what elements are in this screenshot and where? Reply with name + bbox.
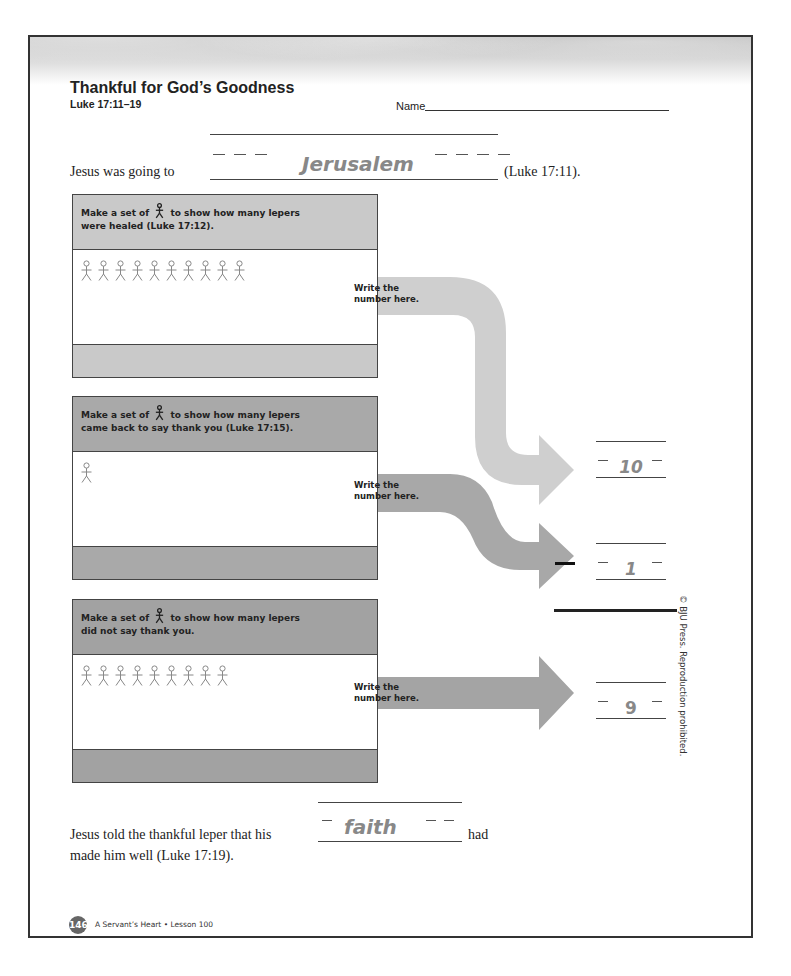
answer-2-field[interactable]: 1 bbox=[596, 559, 666, 580]
set-box-header: Make a set of to show how many lepers di… bbox=[73, 600, 377, 655]
figure-set bbox=[79, 462, 94, 484]
leper-figure-icon bbox=[164, 260, 179, 282]
subtraction-bar bbox=[554, 609, 677, 612]
drawing-area[interactable] bbox=[73, 250, 377, 344]
faith-answer: faith bbox=[344, 814, 397, 841]
arrow-3-label: Write thenumber here. bbox=[354, 682, 419, 704]
answer-3-field[interactable]: 9 bbox=[596, 698, 666, 719]
answer-3-top-line bbox=[596, 682, 666, 683]
leper-figure-icon bbox=[147, 260, 162, 282]
leper-figure-icon bbox=[198, 260, 213, 282]
stick-figure-icon bbox=[154, 405, 165, 421]
set-box-footer bbox=[73, 344, 377, 377]
leper-figure-icon bbox=[198, 665, 213, 687]
question2-line2: made him well (Luke 17:19). bbox=[70, 848, 234, 864]
leper-figure-icon bbox=[130, 260, 145, 282]
footer-text: A Servant’s Heart • Lesson 100 bbox=[95, 920, 213, 929]
stick-figure-icon bbox=[154, 608, 165, 624]
instruction-text: to show how many lepers bbox=[171, 410, 300, 420]
worksheet-page: Thankful for God’s Goodness Luke 17:11–1… bbox=[28, 35, 753, 938]
minus-sign-icon bbox=[555, 562, 575, 565]
answer-2-top-line bbox=[596, 543, 666, 544]
leper-figure-icon bbox=[79, 260, 94, 282]
instruction-text: came back to say thank you (Luke 17:15). bbox=[81, 423, 293, 433]
answer-1-field[interactable]: 10 bbox=[596, 457, 666, 478]
page-number-badge: 146 bbox=[69, 916, 87, 934]
instruction-text: to show how many lepers bbox=[171, 208, 300, 218]
instruction-text: to show how many lepers bbox=[171, 613, 300, 623]
leper-figure-icon bbox=[215, 665, 230, 687]
set-box-not-thankful: Make a set of to show how many lepers di… bbox=[72, 599, 378, 783]
set-box-healed: Make a set of to show how many lepers we… bbox=[72, 194, 378, 378]
drawing-area[interactable] bbox=[73, 655, 377, 749]
answer-1-top-line bbox=[596, 441, 666, 442]
leper-figure-icon bbox=[113, 260, 128, 282]
arrow-2-label: Write thenumber here. bbox=[354, 480, 419, 502]
set-box-returned: Make a set of to show how many lepers ca… bbox=[72, 396, 378, 580]
leper-figure-icon bbox=[147, 665, 162, 687]
instruction-text: did not say thank you. bbox=[81, 626, 194, 636]
figure-set bbox=[79, 665, 230, 687]
set-box-footer bbox=[73, 546, 377, 579]
stick-figure-icon bbox=[154, 203, 165, 219]
copyright-notice: © BJU Press. Reproduction prohibited. bbox=[678, 595, 688, 756]
set-box-header: Make a set of to show how many lepers we… bbox=[73, 195, 377, 250]
leper-figure-icon bbox=[232, 260, 247, 282]
drawing-area[interactable] bbox=[73, 452, 377, 546]
instruction-text: were healed (Luke 17:12). bbox=[81, 221, 214, 231]
figure-set bbox=[79, 260, 247, 282]
leper-figure-icon bbox=[96, 260, 111, 282]
arrow-1-icon bbox=[348, 277, 574, 505]
leper-figure-icon bbox=[79, 462, 94, 484]
question2-prefix: Jesus told the thankful leper that his bbox=[70, 827, 271, 843]
faith-answer-field[interactable]: faith bbox=[318, 814, 462, 842]
leper-figure-icon bbox=[181, 260, 196, 282]
instruction-text: Make a set of bbox=[81, 410, 149, 420]
instruction-text: Make a set of bbox=[81, 208, 149, 218]
leper-figure-icon bbox=[79, 665, 94, 687]
arrow-1-label: Write thenumber here. bbox=[354, 283, 419, 305]
instruction-text: Make a set of bbox=[81, 613, 149, 623]
leper-figure-icon bbox=[96, 665, 111, 687]
question2-suffix: had bbox=[468, 827, 488, 843]
leper-figure-icon bbox=[181, 665, 196, 687]
set-box-footer bbox=[73, 749, 377, 782]
leper-figure-icon bbox=[215, 260, 230, 282]
leper-figure-icon bbox=[130, 665, 145, 687]
leper-figure-icon bbox=[164, 665, 179, 687]
set-box-header: Make a set of to show how many lepers ca… bbox=[73, 397, 377, 452]
answer-faith-top-line bbox=[318, 802, 462, 803]
leper-figure-icon bbox=[113, 665, 128, 687]
